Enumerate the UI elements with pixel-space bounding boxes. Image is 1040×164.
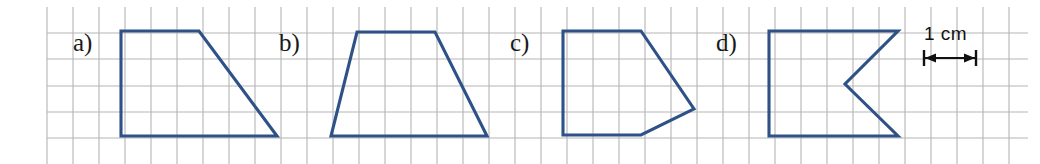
figure-canvas [0, 0, 1040, 164]
panel-label-c: c) [510, 30, 529, 55]
geometry-figure: a) b) c) d) 1 cm [0, 0, 1040, 164]
scale-bar-label: 1 cm [924, 24, 967, 43]
panel-label-b: b) [279, 30, 300, 55]
figure-background [0, 0, 1040, 164]
panel-label-a: a) [73, 30, 92, 55]
panel-label-d: d) [716, 30, 737, 55]
